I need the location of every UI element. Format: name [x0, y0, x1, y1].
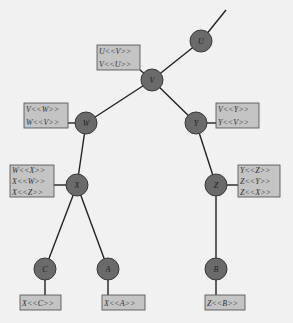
label-text: X<<Z>> — [11, 188, 43, 197]
label-text: V<<W>> — [26, 105, 59, 114]
node-label: B — [214, 265, 219, 274]
label-box-X: W<<X>>X<<W>>X<<Z>> — [10, 165, 54, 197]
node-U: U — [190, 30, 212, 52]
node-Z: Z — [205, 174, 227, 196]
label-box-V: U<<V>>V<<U>> — [97, 45, 140, 70]
label-box-B: Z<<B>> — [205, 295, 245, 310]
node-X: X — [66, 174, 88, 196]
label-text: Z<<X>> — [240, 188, 271, 197]
label-box-Y: V<<Y>>Y<<V>> — [216, 103, 259, 128]
node-label: Z — [214, 181, 219, 190]
label-box-C: X<<C>> — [20, 295, 61, 310]
label-text: Z<<Y>> — [240, 177, 271, 186]
node-Y: Y — [185, 112, 207, 134]
label-box-Z: Y<<Z>>Z<<Y>>Z<<X>> — [238, 165, 280, 197]
label-text: X<<C>> — [21, 299, 54, 308]
label-text: Z<<B>> — [207, 299, 238, 308]
node-C: C — [34, 258, 56, 280]
label-text: W<<V>> — [26, 118, 59, 127]
node-B: B — [205, 258, 227, 280]
label-text: V<<Y>> — [218, 105, 249, 114]
label-text: W<<X>> — [12, 166, 45, 175]
label-box-W: V<<W>>W<<V>> — [24, 103, 68, 128]
label-text: Y<<V>> — [218, 118, 249, 127]
tree-diagram: U<<V>>V<<U>>V<<W>>W<<V>>V<<Y>>Y<<V>>W<<X… — [0, 0, 293, 323]
node-W: W — [75, 112, 97, 134]
node-label: A — [105, 265, 111, 274]
label-text: X<<A>> — [103, 299, 135, 308]
node-V: V — [141, 69, 163, 91]
label-text: X<<W>> — [11, 177, 45, 186]
label-text: V<<U>> — [99, 60, 131, 69]
label-text: U<<V>> — [99, 47, 131, 56]
edges — [45, 10, 238, 295]
label-text: Y<<Z>> — [240, 166, 271, 175]
node-A: A — [97, 258, 119, 280]
edge-X-A — [77, 185, 108, 269]
edge-X-C — [45, 185, 77, 269]
node-label: C — [42, 265, 48, 274]
label-box-A: X<<A>> — [102, 295, 145, 310]
edge-V-W — [86, 80, 152, 123]
